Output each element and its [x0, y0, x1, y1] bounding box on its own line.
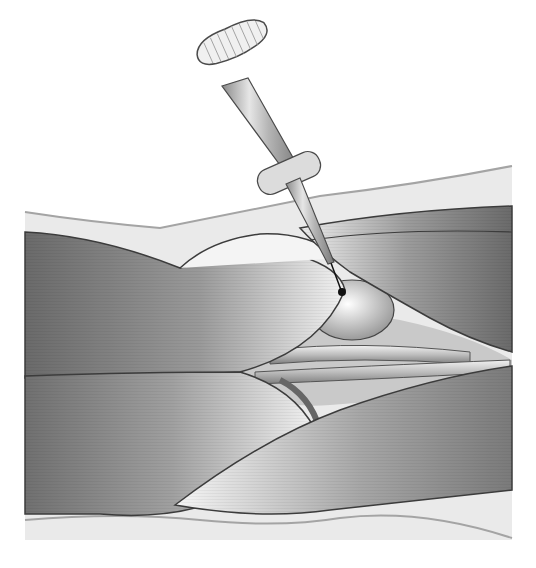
medical-illustration [0, 0, 536, 568]
handle-cap [191, 13, 272, 71]
needle-point [338, 288, 346, 296]
illustration-svg [0, 0, 536, 568]
